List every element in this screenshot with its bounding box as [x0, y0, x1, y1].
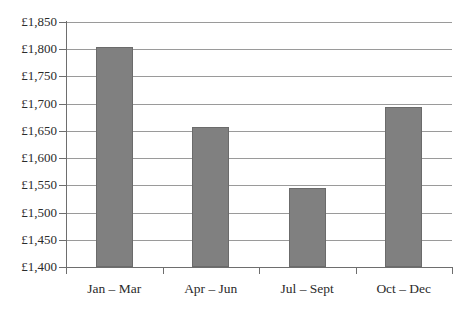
gridline — [66, 22, 452, 23]
y-axis-label: £1,800 — [0, 42, 57, 55]
y-axis-tick-labels: £1,850£1,800£1,750£1,700£1,650£1,600£1,5… — [0, 0, 57, 314]
y-axis-tick — [59, 213, 67, 214]
y-axis-label: £1,650 — [0, 124, 57, 137]
x-axis-label: Oct – Dec — [344, 281, 464, 297]
x-axis-tick — [163, 267, 164, 274]
plot-area — [66, 22, 452, 267]
y-axis-label: £1,600 — [0, 151, 57, 164]
bar[interactable] — [192, 127, 229, 267]
y-axis-tick — [59, 240, 67, 241]
y-axis-tick — [59, 104, 67, 105]
y-axis-label: £1,400 — [0, 260, 57, 273]
y-axis-label: £1,550 — [0, 178, 57, 191]
x-axis-tick — [66, 267, 67, 274]
y-axis-label: £1,700 — [0, 97, 57, 110]
y-axis-label: £1,450 — [0, 233, 57, 246]
y-axis-label: £1,500 — [0, 206, 57, 219]
y-axis-tick — [59, 22, 67, 23]
x-axis-tick — [356, 267, 357, 274]
y-axis-tick — [59, 185, 67, 186]
bar-chart: £1,850£1,800£1,750£1,700£1,650£1,600£1,5… — [0, 0, 466, 314]
y-axis-tick — [59, 76, 67, 77]
y-axis-tick — [59, 131, 67, 132]
y-axis-tick — [59, 158, 67, 159]
x-axis-tick — [452, 267, 453, 274]
bar[interactable] — [289, 188, 326, 267]
y-axis-label: £1,750 — [0, 69, 57, 82]
clipped-chart-title — [0, 0, 466, 7]
y-axis-label: £1,850 — [0, 15, 57, 28]
bar[interactable] — [385, 107, 422, 267]
y-axis-tick — [59, 49, 67, 50]
bar[interactable] — [96, 47, 133, 268]
x-axis-tick — [259, 267, 260, 274]
